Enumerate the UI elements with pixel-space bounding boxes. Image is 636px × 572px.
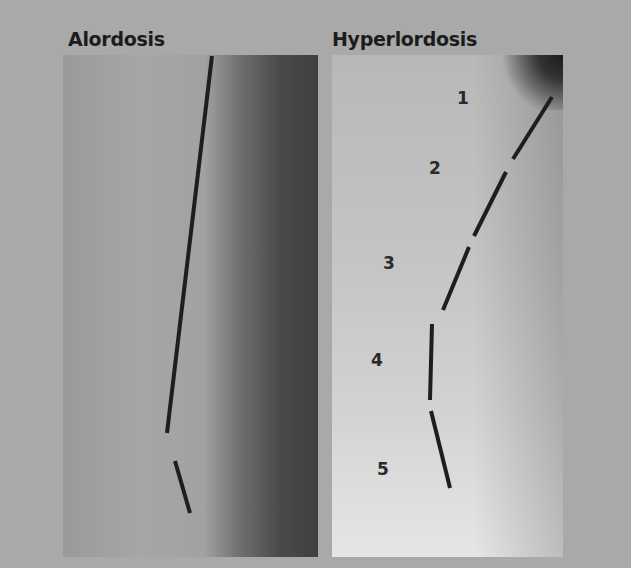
alignment-lines xyxy=(0,0,636,572)
alordosis-line-upper xyxy=(167,56,212,433)
hyperlordosis-line-5 xyxy=(431,411,450,488)
alordosis-line-lower xyxy=(175,461,190,513)
hyperlordosis-line-3 xyxy=(443,247,469,310)
hyperlordosis-line-4 xyxy=(430,324,432,400)
hyperlordosis-line-1 xyxy=(513,97,552,159)
hyperlordosis-line-2 xyxy=(474,172,506,236)
